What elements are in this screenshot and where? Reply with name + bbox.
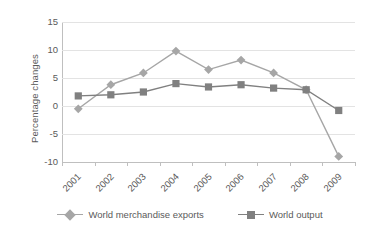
x-tick-label: 2007 <box>256 171 279 194</box>
x-tick-mark <box>257 162 258 166</box>
x-tick-label: 2008 <box>288 171 311 194</box>
y-tick-label: -10 <box>32 157 58 167</box>
y-tick-label: 15 <box>32 17 58 27</box>
data-point-marker <box>140 88 147 95</box>
x-tick-mark <box>355 162 356 166</box>
x-tick-label: 2003 <box>126 171 149 194</box>
series-1 <box>74 47 343 161</box>
square-marker-icon <box>238 209 264 220</box>
data-point-marker <box>172 80 179 87</box>
x-tick-mark <box>192 162 193 166</box>
y-tick-label: 0 <box>32 101 58 111</box>
y-tick-label: 10 <box>32 45 58 55</box>
data-point-marker <box>204 65 213 74</box>
legend-label: World merchandise exports <box>88 209 203 220</box>
data-point-marker <box>107 91 114 98</box>
x-tick-mark <box>225 162 226 166</box>
x-tick-mark <box>322 162 323 166</box>
x-tick-mark <box>290 162 291 166</box>
data-point-marker <box>205 83 212 90</box>
x-tick-label: 2001 <box>60 171 83 194</box>
x-tick-mark <box>62 162 63 166</box>
data-point-marker <box>303 86 310 93</box>
plot-svg <box>62 22 355 162</box>
x-tick-mark <box>95 162 96 166</box>
y-tick-label: 5 <box>32 73 58 83</box>
y-tick-label: -5 <box>32 129 58 139</box>
data-point-marker <box>270 84 277 91</box>
diamond-marker-icon <box>57 209 83 220</box>
x-tick-label: 2002 <box>93 171 116 194</box>
percentage-changes-line-chart: Percentage changes 151050-5-10 200120022… <box>0 0 380 235</box>
x-tick-mark <box>127 162 128 166</box>
legend-label: World output <box>269 209 323 220</box>
chart-legend: World merchandise exportsWorld output <box>0 209 380 220</box>
plot-area <box>62 22 355 162</box>
data-point-marker <box>335 107 342 114</box>
x-tick-mark <box>160 162 161 166</box>
x-tick-label: 2004 <box>158 171 181 194</box>
x-tick-label: 2006 <box>223 171 246 194</box>
data-point-marker <box>139 69 148 78</box>
data-point-marker <box>172 47 181 56</box>
data-point-marker <box>334 152 343 161</box>
data-point-marker <box>75 92 82 99</box>
x-axis-tick-labels: 200120022003200420052006200720082009 <box>62 167 362 201</box>
data-point-marker <box>237 81 244 88</box>
legend-entry-2[interactable]: World output <box>238 209 323 220</box>
x-tick-label: 2005 <box>191 171 214 194</box>
x-tick-label: 2009 <box>321 171 344 194</box>
y-axis-tick-labels: 151050-5-10 <box>30 0 58 235</box>
data-point-marker <box>237 56 246 65</box>
legend-entry-1[interactable]: World merchandise exports <box>57 209 203 220</box>
data-point-marker <box>269 69 278 78</box>
